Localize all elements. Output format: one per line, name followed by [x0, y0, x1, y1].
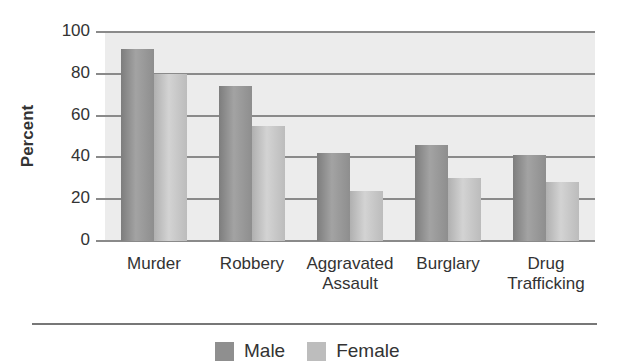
y-tick-label: 0	[40, 231, 90, 249]
bar-female	[350, 191, 383, 241]
bar-female	[448, 178, 481, 241]
legend-swatch-male	[215, 342, 234, 361]
legend-label-male: Male	[244, 340, 285, 362]
y-tick-label: 20	[40, 189, 90, 207]
x-tick-label: Burglary	[393, 254, 503, 274]
divider-rule	[32, 323, 597, 325]
bar-female	[154, 74, 187, 241]
y-tick-label: 100	[40, 22, 90, 40]
bar-male	[415, 145, 448, 241]
legend: Male Female	[215, 340, 422, 362]
bar-female	[546, 182, 579, 241]
gridline	[96, 31, 595, 33]
bar-male	[317, 153, 350, 241]
legend-item-male: Male	[215, 340, 285, 362]
legend-item-female: Female	[307, 340, 399, 362]
bar-chart: 020406080100 Percent MurderRobberyAggrav…	[0, 0, 632, 362]
x-tick-label: Robbery	[197, 254, 307, 274]
y-tick-label: 60	[40, 106, 90, 124]
y-tick-label: 40	[40, 147, 90, 165]
x-tick-label: DrugTrafficking	[491, 254, 601, 294]
y-tick-label: 80	[40, 64, 90, 82]
y-axis-label: Percent	[18, 105, 38, 167]
bar-male	[513, 155, 546, 241]
legend-label-female: Female	[336, 340, 399, 362]
bar-male	[219, 86, 252, 241]
legend-swatch-female	[307, 342, 326, 361]
bar-female	[252, 126, 285, 241]
x-tick-label: AggravatedAssault	[295, 254, 405, 294]
x-tick-label: Murder	[99, 254, 209, 274]
bar-male	[121, 49, 154, 241]
